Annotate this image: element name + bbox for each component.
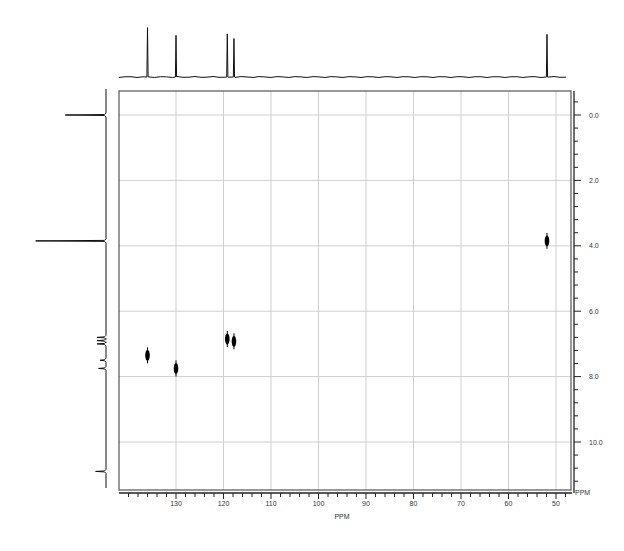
left-projection-trace bbox=[36, 89, 106, 488]
y-tick-label: 2.0 bbox=[589, 177, 599, 184]
plot-frame bbox=[119, 91, 571, 490]
left-projection-spectrum bbox=[36, 89, 106, 488]
top-projection-spectrum bbox=[119, 28, 566, 78]
y-tick-label: 10.0 bbox=[589, 439, 603, 446]
y-tick-label: 6.0 bbox=[589, 308, 599, 315]
x-tick-label: 130 bbox=[170, 500, 182, 507]
x-tick-label: 70 bbox=[457, 500, 465, 507]
nmr-2d-spectrum-figure: 1301201101009080706050 0.02.04.06.08.010… bbox=[0, 0, 624, 551]
x-tick-label: 100 bbox=[313, 500, 325, 507]
y-tick-label: 4.0 bbox=[589, 242, 599, 249]
x-axis-label: PPM bbox=[334, 513, 349, 520]
y-axis-corner-label: PPM bbox=[575, 489, 590, 496]
x-tick-label: 80 bbox=[410, 500, 418, 507]
y-tick-label: 8.0 bbox=[589, 373, 599, 380]
spectrum-svg: 1301201101009080706050 0.02.04.06.08.010… bbox=[0, 0, 624, 551]
x-tick-label: 110 bbox=[265, 500, 276, 507]
y-axis: 0.02.04.06.08.010.0 bbox=[574, 91, 603, 493]
x-tick-label: 120 bbox=[218, 500, 230, 507]
top-projection-trace bbox=[119, 28, 566, 78]
x-axis: 1301201101009080706050 bbox=[119, 493, 572, 507]
grid-lines bbox=[119, 91, 571, 490]
y-tick-label: 0.0 bbox=[589, 112, 599, 119]
x-tick-label: 50 bbox=[552, 500, 560, 507]
x-tick-label: 90 bbox=[362, 500, 370, 507]
x-tick-label: 60 bbox=[505, 500, 513, 507]
cross-peaks bbox=[145, 233, 549, 377]
